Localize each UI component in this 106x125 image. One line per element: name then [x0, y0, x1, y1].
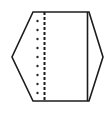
figure-container — [0, 0, 106, 125]
rivet-dot — [36, 56, 38, 58]
rivet-dot — [36, 38, 38, 40]
hexagonal-plate-svg — [0, 0, 106, 125]
rivet-dot — [36, 83, 38, 85]
rivet-dot — [36, 92, 38, 94]
rivet-dot — [36, 65, 38, 67]
rivet-dot — [36, 74, 38, 76]
rivet-dot — [36, 29, 38, 31]
rivet-dot — [36, 20, 38, 22]
rivet-dot — [36, 47, 38, 49]
